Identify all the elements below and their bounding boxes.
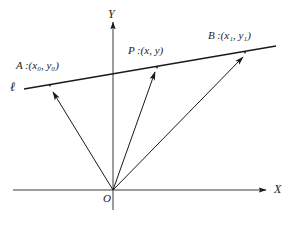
point-a-label: A :(x₀, y₀) xyxy=(16,60,59,71)
point-p-name: P xyxy=(128,44,135,56)
vector-ob xyxy=(113,57,243,190)
point-a-name: A xyxy=(16,59,23,71)
point-a-dot xyxy=(49,85,51,87)
point-p-dot xyxy=(156,67,158,69)
y-axis-label: Y xyxy=(108,8,115,20)
point-b-name: B xyxy=(208,29,215,41)
line-ell-label: ℓ xyxy=(10,80,15,93)
origin-label: O xyxy=(103,193,111,204)
point-p-label: P :(x, y) xyxy=(128,45,163,56)
point-b-label: B :(x₁, y₁) xyxy=(208,30,251,41)
point-b-coords: (x₁, y₁) xyxy=(221,29,251,41)
vector-line-diagram: Y X O ℓ A :(x₀, y₀) P :(x, y) B :(x₁, y₁… xyxy=(0,0,293,233)
point-b-dot xyxy=(244,52,246,54)
vector-op xyxy=(113,72,155,190)
point-a-coords: (x₀, y₀) xyxy=(29,59,59,71)
vector-oa xyxy=(53,92,113,190)
point-p-coords: (x, y) xyxy=(141,44,164,56)
x-axis-label: X xyxy=(274,183,281,195)
